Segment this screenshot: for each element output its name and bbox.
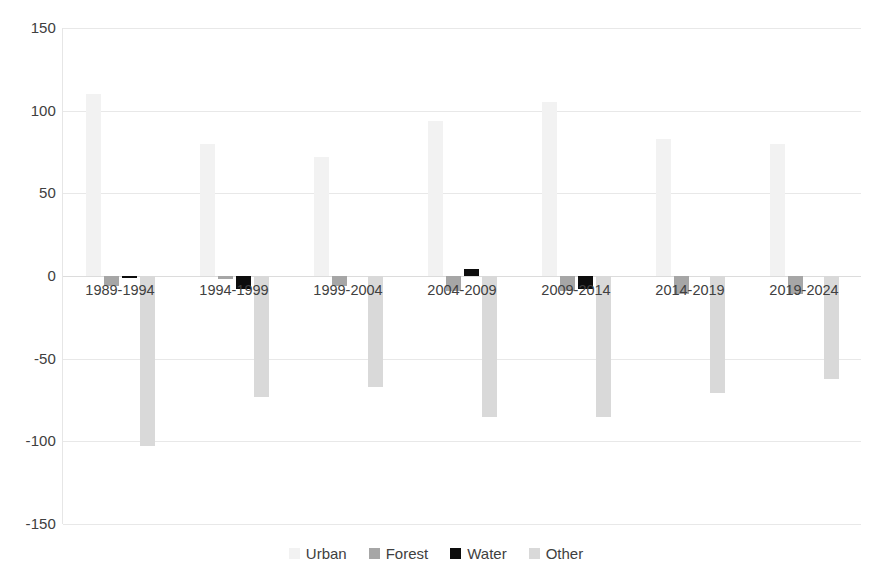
legend-label: Forest bbox=[386, 546, 429, 561]
y-axis-tick-label: 150 bbox=[10, 20, 56, 35]
legend-item-water[interactable]: Water bbox=[450, 546, 506, 561]
bar-group: 2019-2024 bbox=[747, 28, 861, 524]
legend-label: Urban bbox=[306, 546, 347, 561]
y-axis-tick-label: -100 bbox=[10, 433, 56, 448]
bar-urban-2019-2024 bbox=[770, 144, 785, 276]
gridline bbox=[63, 524, 861, 525]
y-axis-tick-label: -150 bbox=[10, 516, 56, 531]
y-axis-tick-label: 100 bbox=[10, 103, 56, 118]
x-axis-category-label: 1994-1999 bbox=[177, 282, 291, 298]
x-axis-category-label: 2019-2024 bbox=[747, 282, 861, 298]
x-axis-category-label: 1999-2004 bbox=[291, 282, 405, 298]
legend-label: Water bbox=[467, 546, 506, 561]
y-axis-tick-label: 50 bbox=[10, 185, 56, 200]
legend-swatch-water bbox=[450, 548, 461, 559]
x-axis-category-label: 2009-2014 bbox=[519, 282, 633, 298]
y-axis: 150100500-50-100-150 bbox=[0, 0, 56, 580]
bar-urban-1994-1999 bbox=[200, 144, 215, 276]
bar-urban-2009-2014 bbox=[542, 102, 557, 276]
legend-label: Other bbox=[546, 546, 584, 561]
bar-group: 1994-1999 bbox=[177, 28, 291, 524]
legend-swatch-other bbox=[529, 548, 540, 559]
legend-item-forest[interactable]: Forest bbox=[369, 546, 429, 561]
x-axis-category-label: 1989-1994 bbox=[63, 282, 177, 298]
bar-group: 1999-2004 bbox=[291, 28, 405, 524]
bar-water-2004-2009 bbox=[464, 269, 479, 276]
bar-urban-2014-2019 bbox=[656, 139, 671, 276]
plot-area: 1989-19941994-19991999-20042004-20092009… bbox=[62, 28, 861, 524]
bar-water-1989-1994 bbox=[122, 276, 137, 278]
x-axis-category-label: 2004-2009 bbox=[405, 282, 519, 298]
bar-group: 2014-2019 bbox=[633, 28, 747, 524]
bar-group: 2004-2009 bbox=[405, 28, 519, 524]
bar-urban-1989-1994 bbox=[86, 94, 101, 276]
legend-item-urban[interactable]: Urban bbox=[289, 546, 347, 561]
legend-swatch-forest bbox=[369, 548, 380, 559]
y-axis-tick-label: 0 bbox=[10, 268, 56, 283]
legend-item-other[interactable]: Other bbox=[529, 546, 584, 561]
bar-group: 1989-1994 bbox=[63, 28, 177, 524]
bar-chart: 150100500-50-100-150 1989-19941994-19991… bbox=[0, 0, 872, 580]
bar-urban-2004-2009 bbox=[428, 121, 443, 276]
legend-swatch-urban bbox=[289, 548, 300, 559]
bar-forest-1994-1999 bbox=[218, 276, 233, 279]
bar-group: 2009-2014 bbox=[519, 28, 633, 524]
y-axis-tick-label: -50 bbox=[10, 351, 56, 366]
chart-legend: UrbanForestWaterOther bbox=[0, 546, 872, 561]
bar-urban-1999-2004 bbox=[314, 157, 329, 276]
bar-other-1989-1994 bbox=[140, 276, 155, 446]
x-axis-category-label: 2014-2019 bbox=[633, 282, 747, 298]
